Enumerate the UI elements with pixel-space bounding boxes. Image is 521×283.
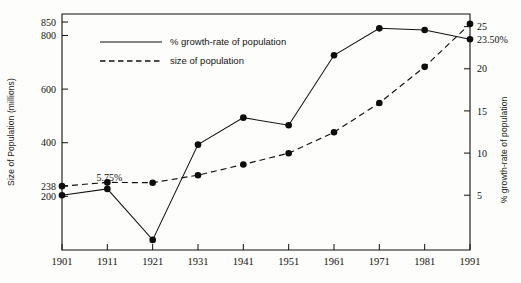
legend-label-2: size of population <box>170 55 244 66</box>
y-axis-ticklabel-left: 800 <box>41 30 56 41</box>
legend-label-1: % growth-rate of population <box>170 36 286 47</box>
y-axis-ticklabel-left: 238 <box>41 181 56 192</box>
y-axis-ticklabel-right: 15 <box>477 106 487 117</box>
y-axis-ticklabel-right: 25 <box>477 21 487 32</box>
data-point <box>59 192 66 199</box>
x-axis-ticklabel: 1981 <box>414 256 435 267</box>
population-growth-chart: 20023840060080085051015202523.50%1901191… <box>0 0 521 283</box>
data-point <box>421 64 428 71</box>
data-point <box>240 161 247 168</box>
y-axis-ticklabel-right: 10 <box>477 148 487 159</box>
y-axis-title-right: % growth-rate of population <box>499 97 509 204</box>
data-point <box>285 150 292 157</box>
y-axis-ticklabel-left: 400 <box>41 137 56 148</box>
y-axis-ticklabel-left: 600 <box>41 84 56 95</box>
data-point <box>149 179 156 186</box>
x-axis-ticklabel: 1971 <box>369 256 390 267</box>
data-point <box>195 141 202 148</box>
data-point <box>376 100 383 107</box>
y-axis-ticklabel-left: 850 <box>41 17 56 28</box>
data-point <box>149 237 156 244</box>
x-axis-ticklabel: 1951 <box>278 256 299 267</box>
data-point <box>195 172 202 179</box>
series-line-size-of-population <box>62 24 470 186</box>
chart-svg: 20023840060080085051015202523.50%1901191… <box>0 0 521 283</box>
data-point <box>467 36 474 43</box>
data-point <box>376 25 383 32</box>
data-point <box>331 52 338 59</box>
data-point <box>331 129 338 136</box>
y-axis-title-left: Size of Population (millions) <box>6 78 16 186</box>
y-axis-ticklabel-right: 20 <box>477 63 487 74</box>
data-point <box>467 21 474 28</box>
x-axis-ticklabel: 1911 <box>97 256 118 267</box>
plot-frame <box>62 14 470 250</box>
x-axis-ticklabel: 1961 <box>324 256 345 267</box>
x-axis-ticklabel: 1991 <box>460 256 481 267</box>
data-point <box>285 122 292 129</box>
x-axis-ticklabel: 1941 <box>233 256 254 267</box>
y-axis-ticklabel-right: 5 <box>477 190 482 201</box>
data-point <box>59 183 66 190</box>
x-axis-ticklabel: 1931 <box>188 256 209 267</box>
series-line-growth-rate <box>62 28 470 240</box>
annotation-label: 5.75% <box>96 172 122 183</box>
data-point <box>421 27 428 34</box>
x-axis-ticklabel: 1901 <box>52 256 73 267</box>
x-axis-ticklabel: 1921 <box>142 256 163 267</box>
data-point <box>240 114 247 121</box>
y-axis-ticklabel-right-highlight: 23.50% <box>477 34 508 45</box>
data-point <box>104 186 111 193</box>
y-axis-ticklabel-left: 200 <box>41 191 56 202</box>
